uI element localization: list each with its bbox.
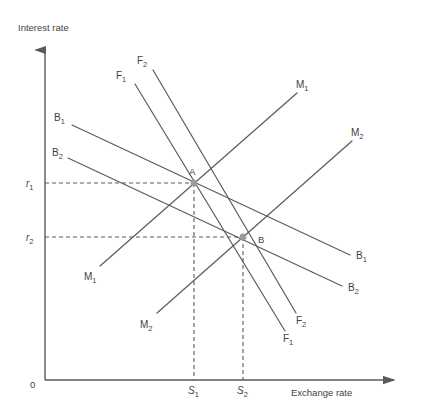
origin-label: 0	[30, 379, 35, 390]
curve-sub-M2-end: 2	[359, 132, 363, 141]
curve-M2	[157, 141, 352, 313]
curve-label-M2-start: M2	[140, 319, 153, 333]
curve-F1	[135, 84, 285, 331]
curve-sub-M2-start: 2	[148, 324, 152, 333]
curve-label-B2-start: B2	[52, 147, 63, 161]
y-axis-title: Interest rate	[18, 22, 69, 33]
curve-label-B1-start: B1	[54, 112, 65, 126]
curve-base-M2-end: M	[351, 127, 359, 138]
y-tick-sub-r1: 1	[29, 183, 33, 192]
curve-sub-B1-end: 1	[363, 255, 367, 264]
x-tick-label-s1: S1	[188, 385, 199, 399]
curve-sub-B2-start: 2	[59, 152, 63, 161]
x-tick-sub-s1: 1	[195, 390, 199, 399]
x-tick-label-s2: S2	[237, 385, 248, 399]
curve-sub-B1-start: 1	[61, 117, 65, 126]
y-tick-label-r1: r1	[26, 178, 34, 192]
curve-base-M1-start: M	[84, 271, 92, 282]
point-label-A: A	[189, 166, 196, 177]
curve-base-M2-start: M	[140, 319, 148, 330]
curve-M1	[100, 93, 297, 266]
curve-base-M1-end: M	[296, 79, 304, 90]
curve-label-B2-end: B2	[348, 282, 359, 296]
curve-label-F2-end: F2	[296, 315, 306, 329]
curve-label-M2-end: M2	[351, 127, 364, 141]
x-tick-sub-s2: 2	[244, 390, 248, 399]
curve-sub-M1-start: 1	[92, 276, 96, 285]
curve-label-F1-start: F1	[116, 70, 126, 84]
curve-sub-F2-end: 2	[302, 320, 306, 329]
curve-label-B1-end: B1	[356, 250, 367, 264]
y-tick-label-r2: r2	[26, 232, 34, 246]
curve-sub-F2-start: 2	[143, 60, 147, 69]
curve-B2	[68, 158, 342, 286]
curve-label-F1-end: F1	[283, 333, 293, 347]
curve-sub-B2-end: 2	[355, 287, 359, 296]
curve-label-F2-start: F2	[137, 55, 147, 69]
curve-sub-M1-end: 1	[304, 84, 308, 93]
diagram-canvas: Interest rate Exchange rate 0 A B r1 r2	[0, 0, 421, 420]
curve-sub-F1-start: 1	[122, 75, 126, 84]
curve-label-M1-end: M1	[296, 79, 309, 93]
point-label-B: B	[258, 234, 264, 245]
y-tick-sub-r2: 2	[29, 237, 33, 246]
point-marker-A	[191, 180, 198, 187]
curve-sub-F1-end: 1	[289, 338, 293, 347]
point-marker-B	[240, 234, 247, 241]
x-axis-title: Exchange rate	[291, 387, 352, 398]
curve-label-M1-start: M1	[84, 271, 97, 285]
curve-B1	[72, 125, 350, 255]
economics-diagram: Interest rate Exchange rate 0 A B r1 r2	[0, 0, 421, 420]
curve-F2	[153, 70, 296, 313]
